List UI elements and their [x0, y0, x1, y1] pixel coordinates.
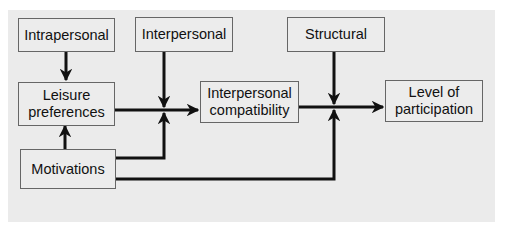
node-motivations: Motivations	[20, 149, 116, 189]
node-interpersonal: Interpersonal	[135, 17, 233, 52]
node-interpersonal-compatibility-line2: compatibility	[210, 102, 290, 119]
arrow-motivations-to-junction1	[116, 113, 164, 158]
node-interpersonal-compatibility-line1: Interpersonal	[207, 85, 292, 102]
node-leisure-preferences-line2: preferences	[28, 104, 105, 121]
node-level-of-participation: Level of participation	[385, 80, 483, 122]
node-motivations-label: Motivations	[31, 161, 104, 178]
node-interpersonal-label: Interpersonal	[142, 26, 227, 43]
node-level-of-participation-line1: Level of	[409, 84, 460, 101]
node-leisure-preferences-line1: Leisure	[43, 87, 91, 104]
node-intrapersonal: Intrapersonal	[18, 18, 115, 52]
node-level-of-participation-line2: participation	[395, 101, 473, 118]
node-leisure-preferences: Leisure preferences	[18, 82, 115, 126]
node-structural-label: Structural	[305, 26, 367, 43]
node-interpersonal-compatibility: Interpersonal compatibility	[200, 81, 299, 123]
node-structural: Structural	[287, 17, 385, 52]
node-intrapersonal-label: Intrapersonal	[24, 27, 109, 44]
